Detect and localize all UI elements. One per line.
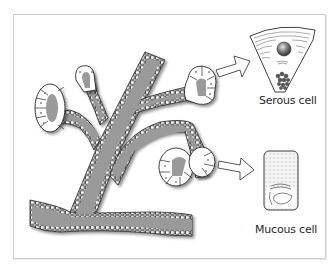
serous-nucleus <box>277 42 291 56</box>
duct-system <box>30 52 208 236</box>
mucous-cell <box>264 151 298 210</box>
acinus-upper-right <box>184 66 216 104</box>
arrow-to-serous <box>216 56 250 77</box>
acinus-lower-right <box>159 147 215 186</box>
serous-cell-label: Serous cell <box>259 94 317 107</box>
arrow-to-mucous <box>218 158 254 180</box>
duct-lumen <box>32 58 202 230</box>
serous-cell <box>250 27 315 92</box>
mucous-cell-label: Mucous cell <box>255 223 317 236</box>
